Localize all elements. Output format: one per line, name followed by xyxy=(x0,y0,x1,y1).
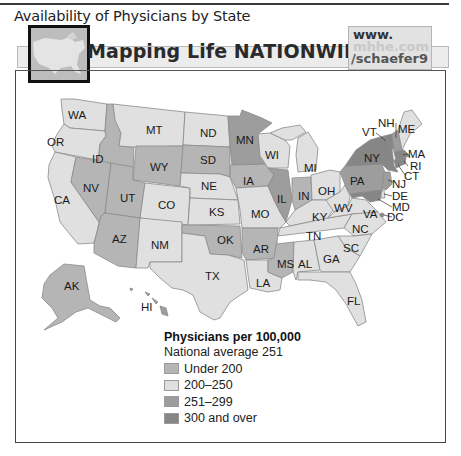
label-MI: MI xyxy=(304,162,317,174)
label-NM: NM xyxy=(151,239,169,251)
label-DC: DC xyxy=(387,211,404,223)
label-CT: CT xyxy=(404,170,419,182)
label-ND: ND xyxy=(200,127,217,139)
label-ME: ME xyxy=(398,123,416,135)
label-WY: WY xyxy=(150,161,169,173)
legend-item-under-200: Under 200 xyxy=(164,361,301,377)
label-LA: LA xyxy=(256,277,270,289)
label-NC: NC xyxy=(352,223,369,235)
legend-swatch xyxy=(164,413,179,424)
label-AZ: AZ xyxy=(112,233,127,245)
legend-label: 300 and over xyxy=(184,411,257,425)
legend-subtitle: National average 251 xyxy=(164,345,301,360)
label-MT: MT xyxy=(146,124,163,136)
label-WA: WA xyxy=(68,109,86,121)
state-CT[interactable] xyxy=(394,158,402,168)
legend-item-300-over: 300 and over xyxy=(164,410,301,426)
label-AR: AR xyxy=(253,243,269,255)
label-NH: NH xyxy=(378,117,395,129)
label-NE: NE xyxy=(201,180,217,192)
label-GA: GA xyxy=(323,253,340,265)
legend: Physicians per 100,000 National average … xyxy=(164,330,301,426)
state-AK[interactable] xyxy=(42,264,120,330)
label-FL: FL xyxy=(347,295,361,307)
label-VT: VT xyxy=(362,126,377,138)
label-OK: OK xyxy=(217,234,234,246)
label-UT: UT xyxy=(120,192,135,204)
label-AL: AL xyxy=(298,258,313,270)
label-SC: SC xyxy=(343,242,359,254)
label-VA: VA xyxy=(363,208,378,220)
label-IN: IN xyxy=(298,190,310,202)
label-TX: TX xyxy=(205,270,220,282)
label-MA: MA xyxy=(408,148,426,160)
state-DC[interactable] xyxy=(380,213,384,217)
label-ID: ID xyxy=(92,153,104,165)
label-TN: TN xyxy=(306,230,321,242)
label-SD: SD xyxy=(200,154,216,166)
label-IL: IL xyxy=(277,193,287,205)
legend-item-251-299: 251–299 xyxy=(164,394,301,410)
label-WI: WI xyxy=(265,149,279,161)
legend-label: Under 200 xyxy=(184,362,242,376)
label-HI: HI xyxy=(141,301,153,313)
legend-swatch xyxy=(164,380,179,391)
label-NJ: NJ xyxy=(392,178,406,190)
legend-label: 200–250 xyxy=(184,378,233,392)
label-PA: PA xyxy=(350,175,365,187)
label-AK: AK xyxy=(64,280,80,292)
label-NV: NV xyxy=(83,182,99,194)
label-KS: KS xyxy=(209,206,225,218)
label-IA: IA xyxy=(243,175,254,187)
label-KY: KY xyxy=(312,211,328,223)
label-NY: NY xyxy=(364,152,380,164)
label-MN: MN xyxy=(236,134,254,146)
label-CA: CA xyxy=(54,194,70,206)
legend-title: Physicians per 100,000 xyxy=(164,330,301,345)
label-OR: OR xyxy=(47,136,64,148)
legend-swatch xyxy=(164,363,179,374)
label-MO: MO xyxy=(251,208,270,220)
label-CO: CO xyxy=(158,199,175,211)
legend-item-200-250: 200–250 xyxy=(164,377,301,393)
label-OH: OH xyxy=(318,185,335,197)
legend-swatch xyxy=(164,396,179,407)
legend-label: 251–299 xyxy=(184,395,233,409)
label-MS: MS xyxy=(277,258,295,270)
label-WV: WV xyxy=(334,202,353,214)
